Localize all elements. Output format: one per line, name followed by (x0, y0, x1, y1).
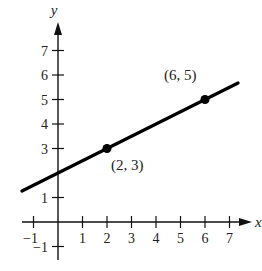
x-tick-label: 5 (177, 231, 184, 246)
data-point-label: (6, 5) (164, 67, 197, 84)
y-tick-label: 7 (41, 44, 48, 59)
y-tick-label: 5 (41, 93, 48, 108)
data-points: (2, 3)(6, 5) (103, 67, 210, 174)
x-tick-label: 2 (104, 231, 111, 246)
x-tick-label: 3 (128, 231, 135, 246)
x-axis-arrow-icon (239, 218, 252, 226)
x-tick-label: 4 (153, 231, 160, 246)
ticks (34, 51, 230, 247)
y-tick-label: 3 (41, 142, 48, 157)
y-tick-label: 4 (41, 117, 48, 132)
y-axis-label: y (49, 2, 58, 18)
line-graph: xy −11234567−1134567 (2, 3)(6, 5) (0, 0, 262, 271)
y-tick-label: −1 (33, 240, 48, 255)
data-point (201, 95, 210, 104)
x-tick-label: 1 (79, 231, 86, 246)
data-point (103, 144, 112, 153)
y-tick-label: 6 (41, 68, 48, 83)
y-axis-arrow-icon (54, 22, 62, 35)
x-tick-label: 6 (202, 231, 209, 246)
x-tick-label: 7 (226, 231, 233, 246)
x-axis-label: x (254, 214, 262, 230)
data-point-label: (2, 3) (111, 157, 144, 174)
y-tick-label: 1 (41, 191, 48, 206)
